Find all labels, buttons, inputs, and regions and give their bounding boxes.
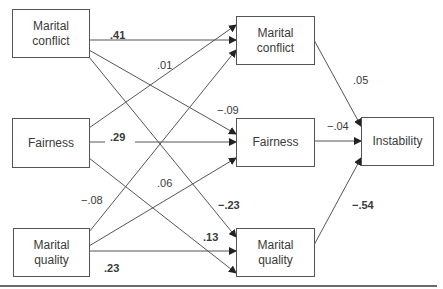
bottom-rule — [0, 285, 437, 287]
node-mid-fairness: Fairness — [236, 118, 315, 167]
coef-lfairness-mquality: .13 — [203, 231, 218, 243]
node-label: Marital quality — [33, 238, 69, 268]
coef-lconflict-mquality: −.23 — [218, 199, 240, 211]
node-mid-marital-conflict: Marital conflict — [236, 16, 315, 65]
coef-lquality-mfairness: .06 — [157, 177, 172, 189]
coef-mfairness-instability: −.04 — [327, 120, 349, 132]
coef-mquality-instability: −.54 — [352, 199, 374, 211]
node-label: Fairness — [252, 135, 298, 150]
node-left-marital-conflict: Marital conflict — [12, 9, 90, 58]
coef-lquality-mquality: .23 — [104, 262, 119, 274]
node-instability: Instability — [361, 117, 434, 166]
node-left-fairness: Fairness — [12, 118, 90, 168]
node-label: Fairness — [28, 136, 74, 151]
node-label: Marital conflict — [32, 19, 69, 49]
edge-lfairness-mquality — [89, 158, 236, 273]
coef-lconflict-mconflict: .41 — [110, 29, 125, 41]
coef-mconflict-instability: .05 — [353, 74, 368, 86]
edge-lconflict-mquality — [89, 57, 236, 237]
coef-lquality-mconflict: −.08 — [81, 194, 103, 206]
node-label: Instability — [372, 134, 422, 149]
coef-lconflict-mfairness: −.09 — [217, 104, 239, 116]
coef-lfairness-mfairness: .29 — [110, 131, 125, 143]
coef-lfairness-mconflict: .01 — [157, 59, 172, 71]
node-left-marital-quality: Marital quality — [13, 228, 90, 277]
node-label: Marital quality — [257, 238, 293, 268]
node-label: Marital conflict — [257, 26, 294, 56]
node-mid-marital-quality: Marital quality — [236, 228, 315, 277]
